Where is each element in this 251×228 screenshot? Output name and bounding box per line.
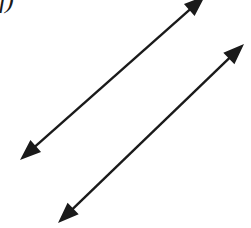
figure-canvas: f) [0,0,251,228]
arrows-diagram [0,0,251,228]
figure-label: f) [0,0,13,13]
figure-background [0,0,251,228]
